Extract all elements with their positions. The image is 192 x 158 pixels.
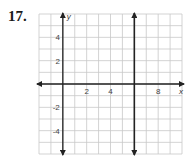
coordinate-plane: 24842-2-4xy bbox=[0, 0, 192, 158]
x-tick-label: 2 bbox=[84, 87, 89, 96]
x-tick-label: 4 bbox=[108, 87, 113, 96]
x-axis-label: x bbox=[178, 87, 184, 96]
y-tick-label: -2 bbox=[53, 103, 61, 112]
y-axis-label: y bbox=[66, 12, 72, 21]
y-tick-label: 4 bbox=[55, 33, 60, 42]
y-tick-label: -4 bbox=[53, 127, 61, 136]
x-tick-label: 8 bbox=[156, 87, 161, 96]
y-tick-label: 2 bbox=[55, 57, 60, 66]
